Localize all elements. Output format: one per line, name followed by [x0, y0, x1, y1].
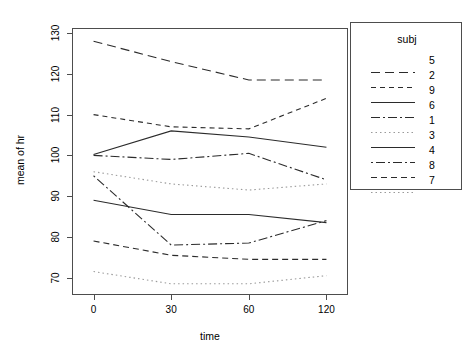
legend-item-7[interactable]: 7	[351, 173, 463, 188]
x-tick-mark	[249, 295, 250, 300]
x-axis-label: time	[200, 330, 220, 342]
legend-item-label: 2	[429, 68, 435, 83]
plot-area	[72, 28, 348, 295]
legend-item-1[interactable]: 1	[351, 113, 463, 128]
legend-item-label: 1	[429, 113, 435, 128]
legend-line-sample-icon	[371, 120, 415, 121]
series-line-7	[94, 272, 327, 284]
legend-item-label: 7	[429, 173, 435, 188]
y-axis-label: mean of hr	[14, 135, 26, 185]
legend-item-label: 4	[429, 143, 435, 158]
legend-item-5[interactable]: 5	[351, 53, 463, 68]
y-tick-label: 70	[50, 272, 61, 283]
legend-line-sample-icon	[371, 150, 415, 151]
legend-line-sample-icon	[371, 135, 415, 136]
series-line-2	[94, 98, 327, 129]
x-tick-label: 120	[318, 304, 335, 315]
x-tick-label: 60	[243, 304, 254, 315]
series-line-3	[94, 200, 327, 222]
legend-item-label: 3	[429, 128, 435, 143]
x-tick-mark	[94, 295, 95, 300]
legend-line-sample-icon	[371, 180, 415, 181]
x-tick-mark	[326, 295, 327, 300]
legend-line-sample-icon	[371, 60, 415, 61]
legend-line-sample-icon	[371, 75, 415, 76]
series-lines	[73, 29, 347, 294]
legend-title: subj	[397, 33, 416, 45]
chart-canvas: mean of hr time 708090100110120130 03060…	[0, 0, 470, 352]
legend-entries: 529613487	[351, 53, 463, 188]
series-line-5	[94, 41, 327, 80]
legend-item-2[interactable]: 2	[351, 68, 463, 83]
legend-line-sample-icon	[371, 105, 415, 106]
y-tick-label: 90	[50, 191, 61, 202]
legend-item-4[interactable]: 4	[351, 143, 463, 158]
series-line-1	[94, 172, 327, 190]
legend-item-3[interactable]: 3	[351, 128, 463, 143]
legend-item-8[interactable]: 8	[351, 158, 463, 173]
series-line-9	[94, 131, 327, 155]
legend-line-sample-icon	[371, 165, 415, 166]
x-tick-label: 0	[91, 304, 97, 315]
y-tick-label: 100	[50, 147, 61, 164]
legend-item-label: 6	[429, 98, 435, 113]
legend-item-label: 8	[429, 158, 435, 173]
y-tick-label: 120	[50, 66, 61, 83]
y-tick-label: 110	[50, 107, 61, 123]
legend-line-sample-icon	[371, 90, 415, 91]
x-tick-mark	[171, 295, 172, 300]
legend-item-label: 5	[429, 53, 435, 68]
x-tick-label: 30	[166, 304, 177, 315]
series-line-6	[94, 153, 327, 180]
legend-item-6[interactable]: 6	[351, 98, 463, 113]
legend-box: subj 529613487	[350, 22, 462, 190]
y-tick-label: 80	[50, 231, 61, 242]
legend-item-9[interactable]: 9	[351, 83, 463, 98]
y-tick-label: 130	[50, 25, 61, 42]
legend-item-label: 9	[429, 83, 435, 98]
